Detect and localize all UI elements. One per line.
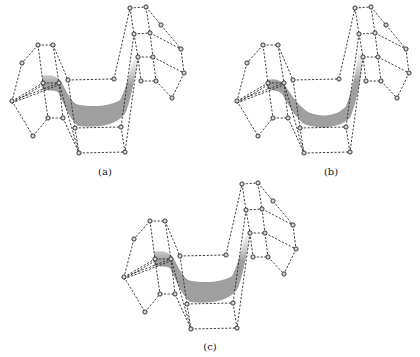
- control-point: [57, 81, 61, 85]
- control-edge: [191, 328, 237, 329]
- control-edge: [12, 83, 43, 101]
- control-point: [251, 255, 255, 259]
- control-edge: [33, 118, 48, 136]
- control-point: [119, 125, 123, 129]
- control-edge: [150, 33, 181, 49]
- control-edge: [262, 209, 293, 225]
- panel-label: (a): [98, 166, 112, 177]
- control-edge: [68, 79, 114, 80]
- control-edge: [375, 33, 406, 49]
- control-edge: [150, 221, 155, 259]
- control-edge: [124, 239, 134, 277]
- control-point: [384, 23, 388, 27]
- control-edge: [263, 45, 268, 83]
- control-point: [407, 71, 411, 75]
- control-point: [73, 126, 77, 130]
- control-point: [143, 310, 147, 314]
- panel-a: (a): [10, 5, 186, 177]
- control-point: [271, 116, 275, 120]
- control-point: [151, 55, 155, 59]
- control-edge: [339, 8, 355, 79]
- panels-group: (a)(b)(c): [10, 5, 411, 352]
- control-edge: [12, 101, 33, 136]
- control-point: [169, 257, 173, 261]
- control-edge: [237, 63, 247, 101]
- control-edge: [278, 45, 284, 83]
- control-edge: [237, 83, 268, 101]
- control-point: [353, 6, 357, 10]
- control-point: [266, 81, 270, 85]
- control-edge: [180, 255, 226, 256]
- control-edge: [355, 8, 359, 34]
- control-edge: [268, 257, 284, 274]
- control-point: [294, 247, 298, 251]
- control-point: [361, 55, 365, 59]
- control-edge: [397, 73, 409, 98]
- control-net: [10, 5, 186, 155]
- control-point: [302, 151, 306, 155]
- control-edge: [150, 33, 153, 57]
- shaded-surface-band: [42, 50, 139, 127]
- control-edge: [237, 83, 284, 101]
- control-point: [256, 181, 260, 185]
- control-point: [154, 79, 158, 83]
- control-net: [235, 5, 411, 155]
- control-point: [260, 207, 264, 211]
- control-edge: [12, 63, 22, 101]
- control-edge: [161, 25, 181, 49]
- control-point: [31, 134, 35, 138]
- control-edge: [181, 49, 184, 73]
- control-point: [36, 43, 40, 47]
- control-point: [61, 116, 65, 120]
- control-edge: [237, 101, 258, 136]
- control-edge: [293, 225, 296, 249]
- control-net: [122, 181, 298, 331]
- control-edge: [284, 249, 296, 274]
- control-point: [266, 255, 270, 259]
- control-edge: [293, 79, 339, 80]
- control-point: [148, 219, 152, 223]
- control-point: [173, 292, 177, 296]
- control-point: [224, 253, 228, 257]
- control-edge: [22, 45, 38, 63]
- control-point: [348, 150, 352, 154]
- control-edge: [258, 118, 273, 136]
- control-point: [282, 272, 286, 276]
- control-edge: [233, 303, 237, 328]
- control-edge: [265, 233, 296, 249]
- control-edge: [265, 233, 268, 257]
- control-point: [376, 55, 380, 59]
- control-edge: [273, 201, 293, 225]
- control-point: [153, 257, 157, 261]
- control-point: [404, 47, 408, 51]
- control-edge: [156, 81, 172, 98]
- control-edge: [375, 33, 378, 57]
- control-edge: [278, 45, 293, 80]
- control-point: [379, 79, 383, 83]
- control-point: [112, 77, 116, 81]
- shaded-surface-band: [154, 226, 251, 303]
- panel-label: (b): [324, 166, 338, 177]
- control-point: [291, 223, 295, 227]
- control-point: [163, 219, 167, 223]
- control-point: [261, 43, 265, 47]
- control-point: [235, 326, 239, 330]
- control-point: [132, 237, 136, 241]
- control-edge: [38, 45, 43, 83]
- control-point: [123, 150, 127, 154]
- control-edge: [165, 221, 180, 256]
- control-edge: [153, 57, 184, 73]
- control-edge: [300, 127, 346, 128]
- control-point: [66, 78, 70, 82]
- control-point: [357, 32, 361, 36]
- control-point: [263, 231, 267, 235]
- control-point: [373, 31, 377, 35]
- control-edge: [114, 8, 130, 79]
- control-point: [244, 208, 248, 212]
- control-point: [240, 182, 244, 186]
- control-edge: [53, 45, 68, 80]
- control-edge: [346, 127, 350, 152]
- control-point: [364, 79, 368, 83]
- control-edge: [304, 152, 350, 153]
- control-edge: [138, 57, 141, 81]
